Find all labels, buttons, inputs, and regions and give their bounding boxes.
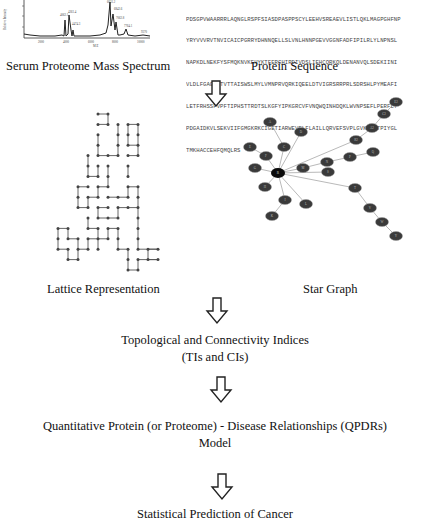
lattice-node [157, 258, 160, 261]
lattice-node [137, 123, 140, 126]
lattice-node [97, 154, 100, 157]
lattice-node [107, 175, 110, 178]
lattice-node [117, 154, 120, 157]
mass-spectrum-chart: Relative Intensity 4062.1 4261.4 4474.3 … [0, 0, 160, 50]
star-node-label: C [283, 145, 285, 149]
lattice-node [97, 196, 100, 199]
stage-line: Topological and Connectivity Indices [0, 332, 430, 349]
lattice-node [117, 206, 120, 209]
spectrum-caption: Serum Proteome Mass Spectrum [6, 59, 170, 74]
lattice-node [77, 237, 80, 240]
svg-text:8000: 8000 [112, 40, 119, 44]
lattice-node [127, 185, 130, 188]
stage-line: Quantitative Protein (or Proteome) - Dis… [0, 418, 430, 435]
lattice-node [137, 144, 140, 147]
svg-text:7764.1: 7764.1 [124, 24, 133, 28]
lattice-node [127, 175, 130, 178]
svg-text:6842.6: 6842.6 [114, 7, 123, 11]
svg-text:4000: 4000 [63, 40, 70, 44]
lattice-node [97, 133, 100, 136]
lattice-node [97, 175, 100, 178]
svg-text:4261.4: 4261.4 [68, 10, 77, 14]
lattice-node [107, 154, 110, 157]
lattice-node [97, 123, 100, 126]
svg-text:9370: 9370 [141, 30, 148, 34]
lattice-node [87, 248, 90, 251]
mass-spectrum-panel: Relative Intensity 4062.1 4261.4 4474.3 … [0, 0, 160, 50]
star-node-label: A2 [370, 126, 374, 130]
lattice-node [87, 237, 90, 240]
lattice-caption: Lattice Representation [47, 282, 160, 297]
lattice-node [127, 269, 130, 272]
lattice-node [117, 248, 120, 251]
star-node-label: M [302, 166, 305, 170]
lattice-node [77, 258, 80, 261]
lattice-node [147, 248, 150, 251]
star-node-label: P [349, 155, 351, 159]
star-node-label: I [284, 198, 285, 202]
lattice-node [107, 123, 110, 126]
lattice-node [97, 217, 100, 220]
lattice-node [157, 248, 160, 251]
lattice-node [137, 154, 140, 157]
lattice-node [107, 237, 110, 240]
stage-line: Statistical Prediction of Cancer [0, 506, 430, 523]
lattice-node [87, 227, 90, 230]
lattice-node [77, 248, 80, 251]
stage-cancer-prediction: Statistical Prediction of Cancer [0, 506, 430, 523]
star-graph: ACDEFGHIKLMNPQSTVWYR2A2C2E2R [230, 100, 430, 280]
star-node-label: E2 [394, 100, 398, 104]
lattice-node [57, 227, 60, 230]
lattice-node [117, 227, 120, 230]
lattice-node [87, 165, 90, 168]
lattice-node [67, 237, 70, 240]
lattice-node [137, 206, 140, 209]
star-node-label: F [265, 154, 267, 158]
lattice-node [67, 227, 70, 230]
lattice-node [67, 258, 70, 261]
lattice-node [97, 113, 100, 116]
svg-text:10000: 10000 [137, 40, 145, 44]
svg-text:7062.8: 7062.8 [116, 16, 125, 20]
lattice-node [137, 258, 140, 261]
star-caption: Star Graph [303, 282, 358, 297]
lattice-node [127, 165, 130, 168]
lattice-node [107, 196, 110, 199]
sequence-caption: Protein Sequence [251, 59, 338, 74]
lattice-node [147, 258, 150, 261]
lattice-node [127, 248, 130, 251]
lattice-node [137, 217, 140, 220]
lattice-node [107, 165, 110, 168]
lattice-node [97, 185, 100, 188]
down-arrow-icon [205, 297, 235, 327]
lattice-node [137, 133, 140, 136]
lattice-node [87, 154, 90, 157]
lattice-node [137, 227, 140, 230]
lattice-node [127, 196, 130, 199]
lattice-node [87, 206, 90, 209]
lattice-node [87, 196, 90, 199]
lattice-node [57, 237, 60, 240]
down-arrow-icon [210, 473, 240, 503]
star-node-label: L [305, 202, 307, 206]
lattice-node [127, 258, 130, 261]
lattice-node [117, 123, 120, 126]
star-node-label: T [354, 186, 356, 190]
lattice-node [137, 196, 140, 199]
lattice-node [137, 237, 140, 240]
lattice-node [127, 206, 130, 209]
lattice-node [117, 144, 120, 147]
lattice-node [107, 217, 110, 220]
lattice-node [87, 175, 90, 178]
star-graph-panel: ACDEFGHIKLMNPQSTVWYR2A2C2E2R [230, 100, 430, 280]
lattice-node [97, 248, 100, 251]
lattice-node [87, 217, 90, 220]
lattice-node [97, 165, 100, 168]
star-node-label: R2 [354, 138, 358, 142]
star-node-label: W [380, 220, 383, 224]
lattice-node [77, 185, 80, 188]
star-node-label: E [249, 145, 251, 149]
star-node-label: S [327, 170, 329, 174]
stage-line: (TIs and CIs) [0, 349, 430, 366]
lattice-node [117, 133, 120, 136]
